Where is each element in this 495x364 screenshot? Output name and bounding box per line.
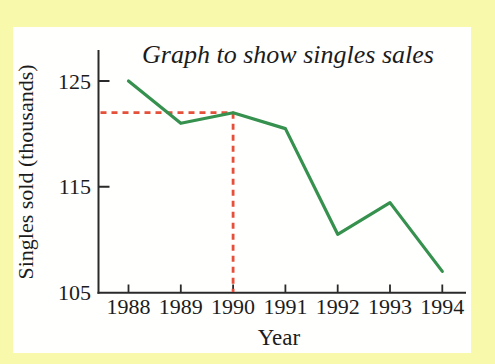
y-tick-label-115: 115 — [59, 174, 91, 199]
y-axis-title: Singles sold (thousands) — [13, 64, 38, 279]
x-axis-title: Year — [258, 325, 301, 350]
y-tick-label-125: 125 — [58, 69, 91, 94]
y-tick-label-105: 105 — [58, 280, 91, 305]
x-tick-label-1994: 1994 — [420, 294, 464, 319]
x-tick-label-1988: 1988 — [107, 294, 151, 319]
x-tick-label-1992: 1992 — [316, 294, 360, 319]
x-tick-label-1991: 1991 — [263, 294, 307, 319]
chart-title: Graph to show singles sales — [142, 40, 434, 69]
chart-svg: Graph to show singles sales 125 115 105 … — [0, 0, 495, 364]
x-tick-label-1990: 1990 — [211, 294, 255, 319]
x-tick-label-1989: 1989 — [159, 294, 203, 319]
page-background: Graph to show singles sales 125 115 105 … — [0, 0, 495, 364]
x-tick-label-1993: 1993 — [368, 294, 412, 319]
